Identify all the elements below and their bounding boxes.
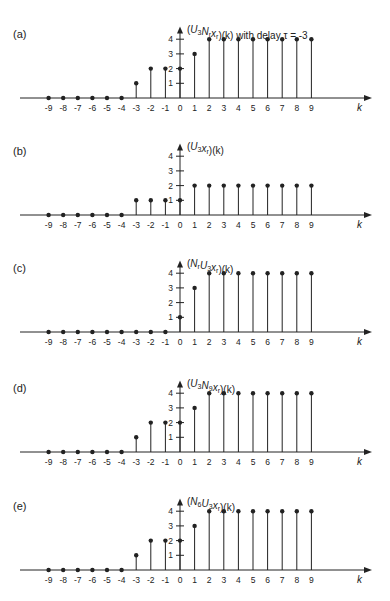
stem-marker: [61, 450, 65, 454]
x-tick-label: 5: [251, 103, 256, 113]
x-tick-label: 8: [294, 457, 299, 467]
y-tick-label: 3: [168, 49, 173, 59]
x-tick-label: -7: [74, 337, 82, 347]
x-tick-label: -1: [162, 457, 170, 467]
x-tick-label: 3: [221, 457, 226, 467]
x-tick-label: 6: [265, 337, 270, 347]
panel-label: (c): [13, 262, 26, 274]
y-tick-label: 2: [168, 418, 173, 428]
x-tick-label: 1: [192, 337, 197, 347]
x-tick-label: 7: [280, 575, 285, 585]
x-tick-label: 8: [294, 575, 299, 585]
y-tick-label: 3: [168, 403, 173, 413]
stem-marker: [251, 37, 255, 41]
x-tick-label: -5: [103, 457, 111, 467]
x-tick-label: 8: [294, 220, 299, 230]
stem-marker: [61, 96, 65, 100]
x-tick-label: 1: [192, 103, 197, 113]
stem-marker: [105, 330, 109, 334]
stem-marker: [265, 183, 269, 187]
stem-marker: [149, 66, 153, 70]
x-tick-label: 5: [251, 457, 256, 467]
x-tick-label: 4: [236, 103, 241, 113]
stem-marker: [119, 450, 123, 454]
x-tick-label: 5: [251, 337, 256, 347]
x-tick-label: -6: [89, 220, 97, 230]
stem-marker: [280, 271, 284, 275]
x-tick-label: 5: [251, 220, 256, 230]
x-tick-label: -4: [118, 220, 126, 230]
stem-marker: [105, 568, 109, 572]
x-tick-label: -9: [45, 220, 53, 230]
stem-marker: [76, 450, 80, 454]
x-tick-label: -7: [74, 575, 82, 585]
x-axis-label: k: [357, 336, 363, 347]
stem-marker: [207, 271, 211, 275]
x-tick-label: -4: [118, 575, 126, 585]
x-tick-label: -4: [118, 337, 126, 347]
x-axis-label: k: [357, 102, 363, 113]
x-tick-label: -2: [147, 220, 155, 230]
x-tick-label: -9: [45, 103, 53, 113]
stem-marker: [295, 271, 299, 275]
x-tick-label: -2: [147, 103, 155, 113]
stem-marker: [236, 271, 240, 275]
stem-marker: [46, 96, 50, 100]
stem-marker: [46, 213, 50, 217]
stem-marker: [295, 183, 299, 187]
x-tick-label: -3: [132, 220, 140, 230]
y-tick-label: 4: [168, 388, 173, 398]
stem-marker: [61, 213, 65, 217]
x-tick-label: -3: [132, 575, 140, 585]
x-axis-arrow-icon: [364, 329, 372, 335]
x-tick-label: -8: [59, 220, 67, 230]
y-axis-arrow-icon: [177, 499, 183, 506]
x-tick-label: 0: [178, 457, 183, 467]
stem-marker: [134, 553, 138, 557]
x-tick-label: -9: [45, 457, 53, 467]
x-tick-label: 6: [265, 103, 270, 113]
stem-marker: [207, 509, 211, 513]
stem-marker: [119, 330, 123, 334]
stem-marker: [105, 450, 109, 454]
x-tick-label: -8: [59, 575, 67, 585]
stem-marker: [265, 391, 269, 395]
stem-marker: [90, 450, 94, 454]
stem-marker: [178, 538, 182, 542]
x-tick-label: 8: [294, 103, 299, 113]
x-tick-label: -1: [162, 220, 170, 230]
stem-marker: [251, 271, 255, 275]
stem-marker: [222, 183, 226, 187]
x-tick-label: -6: [89, 103, 97, 113]
x-tick-label: -8: [59, 337, 67, 347]
x-tick-label: 7: [280, 457, 285, 467]
x-axis-arrow-icon: [364, 567, 372, 573]
stem-marker: [134, 81, 138, 85]
stem-marker: [90, 213, 94, 217]
y-tick-label: 3: [168, 521, 173, 531]
stem-marker: [309, 271, 313, 275]
stem-marker: [61, 568, 65, 572]
x-tick-label: 7: [280, 337, 285, 347]
x-tick-label: 3: [221, 103, 226, 113]
stem-marker: [119, 96, 123, 100]
stem-marker: [90, 330, 94, 334]
panel-label: (e): [13, 500, 26, 512]
x-tick-label: -7: [74, 220, 82, 230]
x-tick-label: -2: [147, 575, 155, 585]
stem-marker: [236, 391, 240, 395]
stem-marker: [163, 330, 167, 334]
stem-marker: [46, 330, 50, 334]
x-axis-arrow-icon: [364, 212, 372, 218]
stem-marker: [236, 37, 240, 41]
stem-marker: [46, 568, 50, 572]
stem-marker: [192, 406, 196, 410]
stem-marker: [76, 213, 80, 217]
stem-marker: [178, 66, 182, 70]
y-tick-label: 4: [168, 506, 173, 516]
x-tick-label: -5: [103, 220, 111, 230]
stem-marker: [251, 509, 255, 513]
stem-marker: [309, 509, 313, 513]
stem-plot-panel-c: (c)1234(NrU3xr)(k)-9-8-7-6-5-4-3-2-10123…: [13, 258, 372, 348]
x-tick-label: 0: [178, 337, 183, 347]
